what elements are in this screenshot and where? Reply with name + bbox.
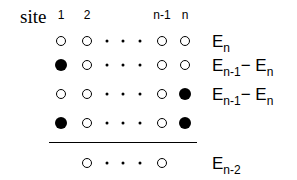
ellipsis-dot-icon bbox=[122, 93, 125, 96]
ellipsis-dot-icon bbox=[122, 162, 125, 165]
column-header-site-2: 2 bbox=[84, 9, 91, 21]
ellipsis-dot-icon bbox=[139, 64, 142, 67]
empty-site-icon bbox=[56, 36, 66, 46]
ellipsis-dot-icon bbox=[139, 162, 142, 165]
occupied-site-icon bbox=[179, 88, 191, 100]
energy-label: En-1− En bbox=[212, 86, 273, 107]
empty-site-icon bbox=[82, 60, 92, 70]
empty-site-icon bbox=[82, 118, 92, 128]
ellipsis-dot-icon bbox=[106, 93, 109, 96]
empty-site-icon bbox=[180, 36, 190, 46]
column-header-site-1: 1 bbox=[58, 9, 65, 21]
ellipsis-dot-icon bbox=[139, 122, 142, 125]
empty-site-icon bbox=[180, 60, 190, 70]
ellipsis-dot-icon bbox=[106, 64, 109, 67]
ellipsis-dot-icon bbox=[139, 40, 142, 43]
energy-label: En-2 bbox=[212, 155, 241, 176]
occupied-site-icon bbox=[55, 117, 67, 129]
site-header-label: site bbox=[20, 7, 46, 26]
column-header-site-n-minus-1: n-1 bbox=[153, 9, 170, 21]
empty-site-icon bbox=[157, 60, 167, 70]
empty-site-icon bbox=[157, 118, 167, 128]
energy-label: En-1− En bbox=[212, 57, 273, 78]
ellipsis-dot-icon bbox=[122, 40, 125, 43]
ellipsis-dot-icon bbox=[106, 40, 109, 43]
ellipsis-dot-icon bbox=[139, 93, 142, 96]
empty-site-icon bbox=[157, 36, 167, 46]
empty-site-icon bbox=[157, 158, 167, 168]
ellipsis-dot-icon bbox=[122, 64, 125, 67]
empty-site-icon bbox=[56, 89, 66, 99]
empty-site-icon bbox=[82, 89, 92, 99]
empty-site-icon bbox=[82, 36, 92, 46]
ellipsis-dot-icon bbox=[106, 122, 109, 125]
occupied-site-icon bbox=[55, 59, 67, 71]
empty-site-icon bbox=[157, 89, 167, 99]
ellipsis-dot-icon bbox=[122, 122, 125, 125]
column-header-site-n: n bbox=[182, 9, 189, 21]
ellipsis-dot-icon bbox=[106, 162, 109, 165]
occupied-site-icon bbox=[179, 117, 191, 129]
separator-line bbox=[49, 142, 197, 143]
energy-label: En bbox=[212, 33, 230, 54]
empty-site-icon bbox=[82, 158, 92, 168]
